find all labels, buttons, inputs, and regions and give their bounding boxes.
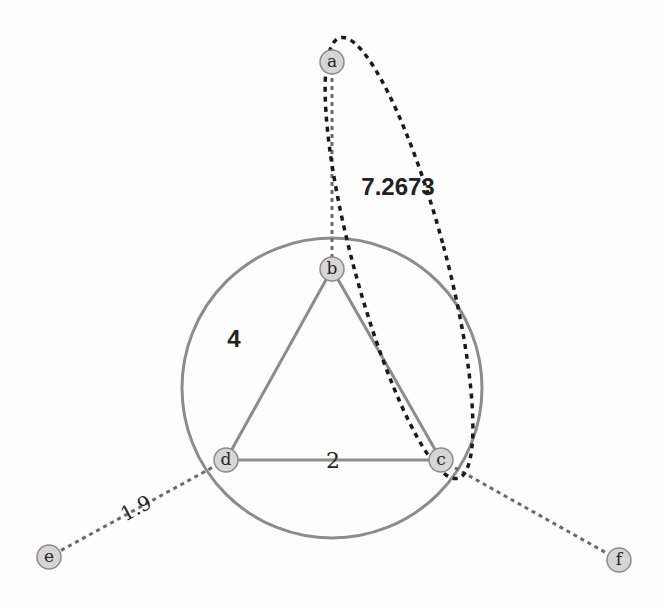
node-c-label: c <box>436 449 446 469</box>
node-e: e <box>37 545 61 569</box>
node-b-label: b <box>327 258 338 278</box>
node-d: d <box>214 448 238 472</box>
node-a: a <box>320 50 344 74</box>
edge-weight-label-de: 1.9 <box>116 490 155 526</box>
node-c: c <box>429 448 453 472</box>
edge-b-c <box>332 269 441 460</box>
ellipse-weight-label: 7.2673 <box>361 173 434 200</box>
node-a-label: a <box>327 51 337 71</box>
node-f: f <box>607 548 631 572</box>
edge-c-f <box>441 460 619 560</box>
node-d-label: d <box>221 449 232 469</box>
edge-weight-label-dc: 2 <box>326 448 340 473</box>
edge-b-d <box>226 269 332 460</box>
graph-diagram: 7.2673 4 2 1.9 a b c d e f <box>0 0 664 606</box>
node-b: b <box>320 257 344 281</box>
circle-weight-label: 4 <box>227 325 241 352</box>
node-e-label: e <box>44 546 54 566</box>
cluster-circle <box>182 238 482 538</box>
